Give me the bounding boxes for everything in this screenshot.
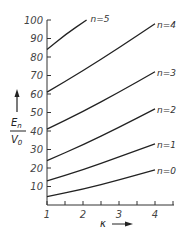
x-label-kappa: κ	[100, 218, 106, 229]
x-tick-label: 4	[152, 209, 158, 220]
curve-label: n=3	[157, 68, 176, 78]
y-tick-label: 50	[30, 107, 43, 118]
curve-label: n=2	[157, 105, 176, 115]
svg-text:V0: V0	[11, 134, 23, 147]
y-tick-label: 20	[30, 163, 43, 174]
y-tick-label: 100	[24, 15, 43, 26]
curve-n-4	[47, 24, 155, 92]
y-tick-label: 40	[30, 126, 43, 137]
curve-n-3	[47, 72, 155, 129]
y-tick-label: 80	[30, 52, 43, 63]
y-tick-label: 70	[30, 70, 43, 81]
y-tick-label: 30	[30, 144, 43, 155]
y-axis-label: En V0	[10, 89, 26, 147]
svg-text:En: En	[11, 117, 22, 130]
curve-n-1	[47, 144, 155, 181]
curve-n-0	[47, 170, 155, 197]
y-tick-label: 60	[30, 89, 43, 100]
energy-levels-chart: 102030405060708090100 1234 n=0n=1n=2n=3n…	[0, 0, 183, 241]
curve-label: n=4	[157, 20, 176, 30]
x-tick-label: 1	[44, 209, 50, 220]
axes	[47, 20, 174, 205]
curve-n-2	[47, 109, 155, 161]
y-label-E-sub: n	[17, 122, 21, 130]
curve-label: n=1	[157, 140, 176, 150]
y-tick-label: 10	[30, 181, 43, 192]
arrow-head-icon	[15, 89, 20, 97]
curves: n=0n=1n=2n=3n=4n=5	[47, 14, 176, 197]
curve-label: n=5	[91, 14, 110, 24]
curve-n-5	[47, 20, 87, 50]
y-label-V-sub: 0	[18, 139, 23, 147]
x-tick-label: 2	[80, 209, 86, 220]
curve-label: n=0	[157, 166, 176, 176]
x-ticks: 1234	[44, 201, 173, 220]
y-tick-label: 90	[30, 33, 43, 44]
arrow-head-icon	[125, 222, 133, 227]
x-tick-label: 3	[116, 209, 122, 220]
